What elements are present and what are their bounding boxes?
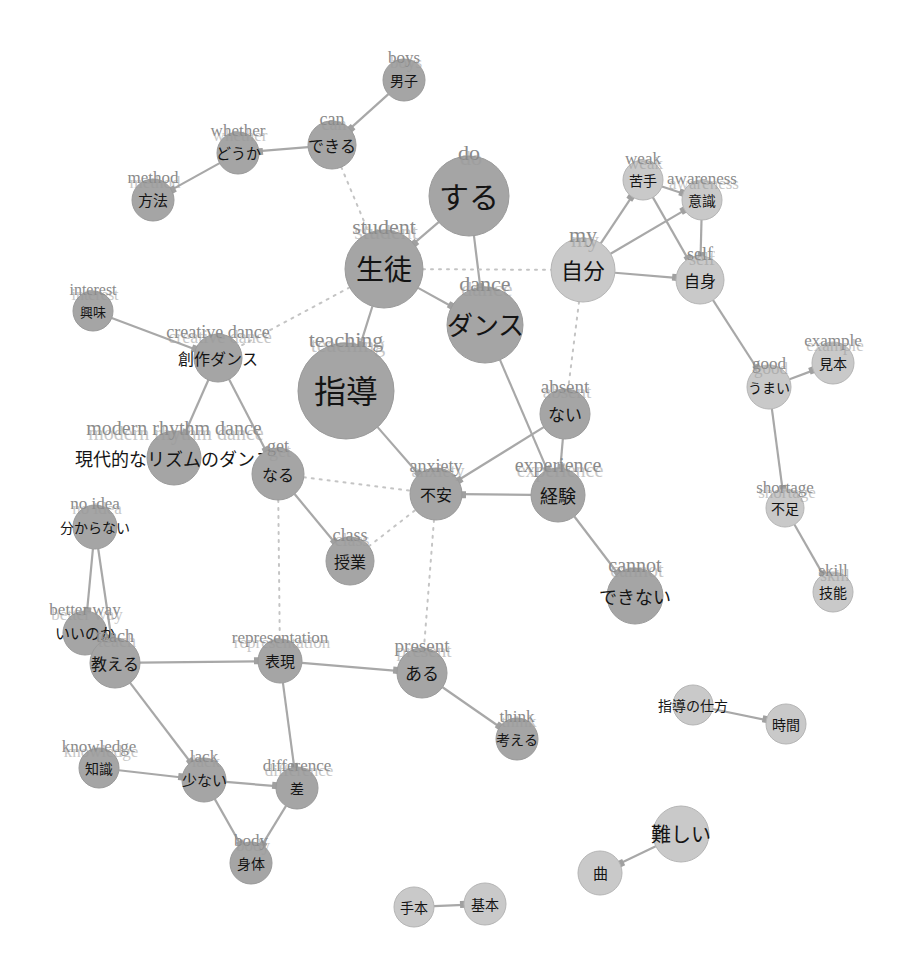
node-label-en-shadow: awareness [669, 174, 739, 193]
node-label-jp: 基本 [471, 897, 499, 913]
node-label-jp: 不足 [771, 501, 799, 517]
node-label-en-shadow: whether [213, 126, 268, 145]
node-label-en-shadow: can [322, 114, 347, 134]
node-creative_dance[interactable]: creative dancecreative dance創作ダンス [166, 322, 271, 382]
edge-get-anxiety [304, 477, 410, 490]
node-label-jp: 生徒 [356, 254, 412, 287]
network-diagram: boysboys男子cancanできるwhetherwhetherどうかmeth… [0, 0, 915, 957]
node-label-en-shadow: teach [98, 631, 136, 651]
node-self[interactable]: selfself自身 [676, 244, 724, 304]
node-awareness[interactable]: awarenessawareness意識 [667, 169, 739, 220]
node-label-jp: 曲 [593, 865, 608, 883]
node-get[interactable]: getgetなる [252, 436, 304, 500]
edge-knowledge-lack [119, 770, 182, 777]
edge-get-class [295, 494, 335, 542]
node-my[interactable]: mymy自分 [551, 222, 615, 302]
node-label-en-shadow: representation [234, 633, 331, 652]
edge-student-dance [418, 288, 452, 307]
node-label-en-shadow: knowledge [64, 742, 139, 761]
node-label-jp: する [439, 180, 499, 215]
node-label-en-shadow: my [571, 227, 599, 252]
node-label-jp: 創作ダンス [178, 350, 258, 369]
node-whether[interactable]: whetherwhetherどうか [211, 121, 268, 174]
node-lack[interactable]: lacklack少ない [182, 747, 227, 802]
node-label-en-shadow: better way [51, 605, 123, 624]
node-label-en-shadow: absent [543, 381, 592, 402]
node-modern_rhythm_dance[interactable]: modern rhythm dancemodern rhythm dance現代… [75, 417, 273, 485]
node-label-en-shadow: teaching [311, 332, 386, 357]
node-label-jp: 差 [290, 781, 304, 797]
node-label-jp: 指導の仕方 [658, 698, 728, 714]
node-label-jp: 教える [91, 655, 139, 674]
edge-model-basic [434, 905, 464, 906]
node-label-en-shadow: difference [265, 761, 334, 780]
node-label-jp: ない [548, 405, 582, 425]
node-time[interactable]: 時間 [766, 704, 806, 744]
node-label-en-shadow: cannot [610, 559, 664, 581]
node-teaching[interactable]: teachingteaching指導 [298, 327, 394, 439]
node-good[interactable]: goodgoodうまい [747, 354, 791, 409]
node-label-en-shadow: creative dance [168, 327, 271, 347]
node-label-jp: 手本 [400, 900, 428, 916]
node-model[interactable]: 手本 [394, 887, 434, 927]
node-student[interactable]: studentstudent生徒 [345, 214, 423, 308]
node-label-jp: ある [405, 664, 439, 684]
node-label-jp: うまい [748, 380, 790, 396]
node-label-jp: 難しい [651, 823, 711, 847]
node-label-jp: 経験 [540, 486, 576, 507]
edge-present-think [443, 687, 500, 727]
node-shortage[interactable]: shortageshortage不足 [756, 478, 816, 527]
node-label-en-shadow: no idea [72, 499, 122, 518]
node-label-jp: 現代的なリズムのダンス [75, 449, 273, 470]
node-song[interactable]: 曲 [578, 851, 622, 895]
node-can[interactable]: cancanできる [308, 109, 356, 169]
node-dance[interactable]: dancedanceダンス [447, 271, 524, 363]
node-interest[interactable]: interestinterest興味 [69, 281, 119, 331]
node-label-en-shadow: good [754, 359, 789, 378]
node-anxiety[interactable]: anxietyanxiety不安 [410, 456, 465, 520]
node-knowledge[interactable]: knowledgeknowledge知識 [62, 737, 139, 788]
node-method[interactable]: methodmethod方法 [128, 168, 181, 221]
node-teaching_method[interactable]: 指導の仕方 [658, 685, 728, 725]
edge-get-representation [278, 500, 279, 639]
node-teach[interactable]: teachteach教える [90, 626, 140, 688]
edge-teach-lack [130, 683, 191, 763]
node-body[interactable]: bodybody身体 [230, 831, 272, 884]
node-label-jp: できない [599, 587, 671, 608]
node-label-en-shadow: present [397, 640, 453, 661]
node-label-en-shadow: boys [390, 53, 422, 72]
node-label-jp: 興味 [80, 305, 106, 320]
node-label-en-shadow: lack [192, 752, 221, 771]
node-label-jp: どうか [216, 145, 261, 163]
node-cannot[interactable]: cannotcannotできない [599, 554, 671, 624]
node-label-en-shadow: self [689, 249, 715, 269]
node-label-jp: 苦手 [629, 173, 657, 189]
edge-boys-can [350, 94, 389, 129]
node-class[interactable]: classclass授業 [326, 525, 374, 585]
node-no_idea[interactable]: no ideano idea分からない [60, 494, 130, 549]
node-boys[interactable]: boysboys男子 [383, 48, 425, 101]
node-think[interactable]: thinkthink考える [496, 707, 538, 760]
node-do[interactable]: dodoする [429, 140, 509, 236]
node-label-jp: 少ない [182, 772, 227, 790]
edge-experience-anxiety [462, 494, 531, 495]
node-label-jp: 考える [496, 732, 538, 748]
node-label-jp: なる [262, 466, 294, 485]
edge-representation-present [302, 663, 397, 671]
node-label-en-shadow: get [269, 441, 291, 461]
node-skill[interactable]: skillskill技能 [813, 561, 853, 612]
edge-teach-representation [140, 661, 258, 662]
node-example[interactable]: exampleexample見本 [804, 331, 864, 384]
node-basic[interactable]: 基本 [464, 883, 506, 925]
node-experience[interactable]: experienceexperience経験 [515, 454, 604, 522]
node-representation[interactable]: representationrepresentation表現 [232, 628, 331, 683]
node-label-en-shadow: interest [71, 286, 119, 303]
node-label-jp: 知識 [85, 761, 113, 777]
edge-lack-difference [226, 782, 276, 786]
node-label-jp: 時間 [772, 717, 800, 733]
node-label-jp: 身体 [237, 856, 265, 872]
node-weak[interactable]: weakweak苦手 [623, 149, 663, 200]
node-difficult[interactable]: 難しい [651, 806, 711, 862]
node-absent[interactable]: absentabsentない [540, 376, 592, 439]
edge-student-my [423, 269, 551, 270]
